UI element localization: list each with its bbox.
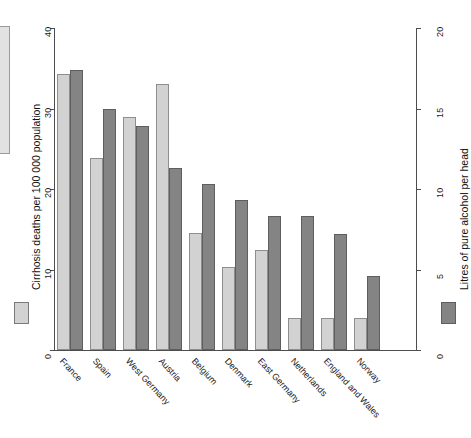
bar-cirrhosis-deaths — [90, 158, 103, 350]
bar-alcohol-litres — [301, 216, 314, 350]
bar-group — [121, 28, 154, 350]
category-label: Belgium — [190, 356, 219, 387]
bar-group — [220, 28, 253, 350]
right-tick-label: 10 — [435, 188, 445, 198]
bar-alcohol-litres — [268, 216, 281, 350]
bar-cirrhosis-deaths — [123, 117, 136, 350]
right-axis-title: Litres of pure alcohol per head — [458, 148, 470, 290]
right-tick-label: 15 — [435, 107, 445, 117]
bar-group — [319, 28, 352, 350]
bar-alcohol-litres — [103, 109, 116, 351]
left-axis-title: Cirrhosis deaths per 100 000 population — [30, 104, 42, 290]
bar-cirrhosis-deaths — [288, 318, 301, 350]
bars-plot-area — [55, 28, 385, 350]
right-tick — [417, 350, 421, 351]
bar-group — [286, 28, 319, 350]
bar-alcohol-litres — [70, 70, 83, 350]
left-tick-label: 30 — [43, 107, 53, 117]
category-label: France — [58, 356, 84, 383]
bar-cirrhosis-deaths — [57, 74, 70, 350]
right-tick-label: 5 — [435, 273, 445, 278]
clipped-left-panel — [0, 26, 10, 154]
right-tick — [417, 189, 421, 190]
right-tick — [417, 28, 421, 29]
bar-cirrhosis-deaths — [255, 250, 268, 350]
x-axis-baseline — [54, 350, 417, 351]
bar-alcohol-litres — [169, 168, 182, 350]
bar-cirrhosis-deaths — [354, 318, 367, 350]
right-tick-label: 0 — [435, 354, 445, 359]
right-tick-label: 20 — [435, 27, 445, 37]
right-tick — [417, 109, 421, 110]
bar-cirrhosis-deaths — [321, 318, 334, 350]
bar-alcohol-litres — [367, 276, 380, 350]
bar-alcohol-litres — [334, 234, 347, 350]
chart-canvas: 010203040 05101520 FranceSpainWest Germa… — [0, 0, 471, 438]
category-label: Norway — [355, 356, 383, 385]
category-label: Austria — [157, 356, 183, 383]
bar-alcohol-litres — [235, 200, 248, 350]
alcohol-litres-swatch — [441, 302, 456, 324]
bar-cirrhosis-deaths — [222, 267, 235, 350]
bar-group — [352, 28, 385, 350]
bar-cirrhosis-deaths — [156, 84, 169, 350]
left-tick-label: 20 — [43, 188, 53, 198]
bar-group — [55, 28, 88, 350]
left-tick-label: 0 — [43, 354, 53, 359]
bar-group — [88, 28, 121, 350]
cirrhosis-deaths-swatch — [14, 302, 29, 324]
bar-group — [154, 28, 187, 350]
bar-cirrhosis-deaths — [189, 233, 202, 350]
left-tick-label: 10 — [43, 268, 53, 278]
category-label: Denmark — [223, 356, 255, 390]
category-label: Spain — [91, 356, 114, 380]
left-tick-label: 40 — [43, 27, 53, 37]
bar-alcohol-litres — [136, 126, 149, 350]
bar-group — [187, 28, 220, 350]
bar-group — [253, 28, 286, 350]
bar-alcohol-litres — [202, 184, 215, 350]
category-label: England and Wales — [322, 356, 382, 420]
right-tick — [417, 270, 421, 271]
